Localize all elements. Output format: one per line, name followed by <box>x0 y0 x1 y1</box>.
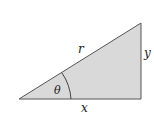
angle-label: θ <box>54 84 61 97</box>
hypotenuse-label: r <box>78 42 85 56</box>
adjacent-label: x <box>81 101 88 115</box>
right-triangle-diagram: r y x θ <box>0 0 154 120</box>
triangle-shape <box>19 23 141 99</box>
opposite-label: y <box>143 46 151 60</box>
